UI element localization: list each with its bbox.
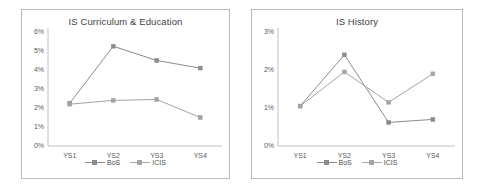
- chart-panel-curriculum: IS Curriculum & Education BoS ICIS 0%1%2…: [21, 9, 230, 179]
- legend-curriculum: BoS ICIS: [22, 158, 229, 166]
- legend-line-marker-bos-icon: [317, 158, 337, 166]
- y-axis-tick-label: 2%: [252, 66, 274, 73]
- y-axis-tick-label: 4%: [22, 66, 44, 73]
- x-axis-tick-label: YS3: [369, 152, 409, 159]
- legend-entry-bos[interactable]: BoS: [317, 158, 352, 166]
- x-axis-tick-label: YS1: [280, 152, 320, 159]
- x-axis-tick-label: YS3: [137, 152, 177, 159]
- y-axis-tick-label: 6%: [22, 28, 44, 35]
- legend-label-bos: BoS: [107, 159, 120, 166]
- y-axis-tick-label: 3%: [22, 85, 44, 92]
- x-axis-tick-label: YS2: [93, 152, 133, 159]
- figure-canvas: IS Curriculum & Education BoS ICIS 0%1%2…: [0, 0, 484, 188]
- legend-entry-icis[interactable]: ICIS: [362, 158, 398, 166]
- y-axis-tick-label: 1%: [252, 104, 274, 111]
- chart-panel-history: IS History BoS ICIS 0%1%2%3%YS1YS2YS3YS4: [251, 9, 463, 179]
- y-axis-tick-label: 3%: [252, 28, 274, 35]
- y-axis-tick-label: 0%: [22, 142, 44, 149]
- x-axis-tick-label: YS1: [50, 152, 90, 159]
- legend-line-marker-icis-icon: [362, 158, 382, 166]
- legend-line-marker-bos-icon: [85, 158, 105, 166]
- legend-entry-icis[interactable]: ICIS: [130, 158, 166, 166]
- y-axis-tick-label: 1%: [22, 123, 44, 130]
- legend-line-marker-icis-icon: [130, 158, 150, 166]
- legend-label-icis: ICIS: [384, 159, 398, 166]
- y-axis-tick-label: 5%: [22, 47, 44, 54]
- x-axis-tick-label: YS4: [180, 152, 220, 159]
- legend-label-bos: BoS: [339, 159, 352, 166]
- legend-entry-bos[interactable]: BoS: [85, 158, 120, 166]
- y-axis-tick-label: 2%: [22, 104, 44, 111]
- x-axis-tick-label: YS2: [324, 152, 364, 159]
- y-axis-tick-label: 0%: [252, 142, 274, 149]
- legend-label-icis: ICIS: [152, 159, 166, 166]
- legend-history: BoS ICIS: [252, 158, 462, 166]
- x-axis-tick-label: YS4: [413, 152, 453, 159]
